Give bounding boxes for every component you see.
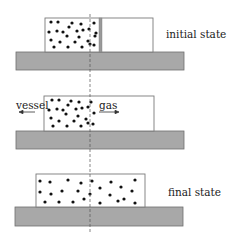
vessel-box-final xyxy=(36,174,145,207)
free-expansion-diagram: initial state vessel gas final state xyxy=(0,0,228,239)
label-initial-state: initial state xyxy=(166,29,226,40)
partition-wall xyxy=(99,18,102,52)
label-final-state: final state xyxy=(168,187,221,198)
platform-middle xyxy=(16,131,184,149)
platform-final xyxy=(15,207,183,226)
label-gas: gas xyxy=(99,100,117,111)
label-vessel: vessel xyxy=(16,100,49,111)
platform-initial xyxy=(16,52,184,70)
panel-final-state xyxy=(15,174,183,226)
panel-initial-state xyxy=(16,18,184,70)
